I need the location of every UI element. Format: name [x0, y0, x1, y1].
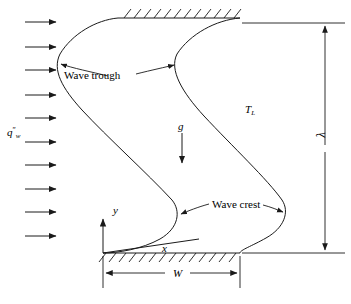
leader-right-trough	[136, 65, 174, 74]
gravity-label: g	[178, 121, 184, 132]
wave-trough-label: Wave trough	[64, 70, 120, 81]
wave-crest-label: Wave crest	[212, 199, 260, 210]
liquid-temperature-label: TL	[245, 104, 255, 117]
figure-canvas: q″w Wave trough Wave crest g TL y x W λ	[0, 0, 351, 304]
temperature-subscript: L	[251, 109, 255, 117]
top-wall	[118, 9, 241, 18]
leader-right-crest	[263, 205, 283, 212]
x-axis-label: x	[162, 243, 167, 254]
wavelength-label: λ	[315, 132, 327, 137]
right-liquid-film-interface	[175, 18, 286, 253]
heat-flux-subscript: w	[16, 132, 21, 140]
bottom-wall	[99, 253, 240, 262]
x-axis	[103, 239, 199, 253]
bottom-wall-hatching	[99, 253, 236, 262]
leader-left-crest	[181, 204, 209, 214]
y-axis-label: y	[113, 205, 118, 216]
top-wall-hatching	[124, 9, 241, 18]
coordinate-axes	[103, 219, 199, 253]
heat-flux-arrow-group	[25, 22, 56, 236]
wavelength-dimension	[242, 23, 345, 253]
diagram-vector-layer	[0, 0, 351, 304]
left-liquid-film-interface	[57, 18, 177, 253]
channel-width-label: W	[173, 268, 182, 279]
heat-flux-label: q″w	[7, 127, 21, 140]
